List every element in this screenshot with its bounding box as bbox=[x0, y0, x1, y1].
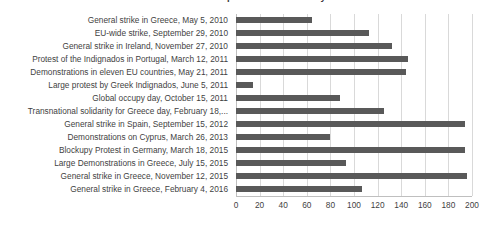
category-label: Protest of the Indignados in Portugal, M… bbox=[0, 53, 231, 66]
bar-row bbox=[236, 27, 472, 40]
category-label: Large Demonstrations in Greece, July 15,… bbox=[0, 157, 231, 170]
bar bbox=[236, 17, 312, 23]
category-label: General strike in Greece, February 4, 20… bbox=[0, 183, 231, 196]
x-tick-label: 120 bbox=[371, 199, 385, 211]
bar-row bbox=[236, 79, 472, 92]
bar-row bbox=[236, 14, 472, 27]
category-label: Blockupy Protest in Germany, March 18, 2… bbox=[0, 144, 231, 157]
bar bbox=[236, 56, 408, 62]
bar bbox=[236, 160, 346, 166]
category-axis-labels: General strike in Greece, May 5, 2010EU-… bbox=[0, 14, 231, 196]
category-label: Demonstrations in eleven EU countries, M… bbox=[0, 66, 231, 79]
x-tick-label: 160 bbox=[418, 199, 432, 211]
x-tick-label: 80 bbox=[326, 199, 335, 211]
category-label: General strike in Spain, September 15, 2… bbox=[0, 118, 231, 131]
x-tick-label: 140 bbox=[394, 199, 408, 211]
bar bbox=[236, 134, 330, 140]
category-label: General strike in Greece, November 12, 2… bbox=[0, 170, 231, 183]
x-axis-line bbox=[236, 196, 472, 197]
x-tick-label: 200 bbox=[465, 199, 479, 211]
bar bbox=[236, 173, 467, 179]
bar-row bbox=[236, 105, 472, 118]
chart-title: Selected transnational protest and solid… bbox=[0, 0, 480, 2]
x-axis-tick-labels: 020406080100120140160180200 bbox=[236, 199, 472, 213]
category-label: Transnational solidarity for Greece day,… bbox=[0, 105, 231, 118]
bar-row bbox=[236, 183, 472, 196]
bar bbox=[236, 69, 406, 75]
bar bbox=[236, 43, 392, 49]
bar bbox=[236, 95, 340, 101]
gridline bbox=[472, 14, 473, 196]
bar-row bbox=[236, 131, 472, 144]
category-label: Demonstrations on Cyprus, March 26, 2013 bbox=[0, 131, 231, 144]
bar bbox=[236, 147, 465, 153]
x-tick-label: 180 bbox=[441, 199, 455, 211]
x-tick-label: 0 bbox=[234, 199, 239, 211]
category-label: General strike in Greece, May 5, 2010 bbox=[0, 14, 231, 27]
category-label: General strike in Ireland, November 27, … bbox=[0, 40, 231, 53]
x-tick-label: 40 bbox=[279, 199, 288, 211]
category-label: Large protest by Greek Indignados, June … bbox=[0, 79, 231, 92]
bar-chart: Selected transnational protest and solid… bbox=[0, 0, 480, 226]
bar-row bbox=[236, 40, 472, 53]
bar bbox=[236, 30, 369, 36]
bar bbox=[236, 121, 465, 127]
bar-row bbox=[236, 66, 472, 79]
bar bbox=[236, 82, 253, 88]
plot-area bbox=[236, 14, 472, 196]
bar-row bbox=[236, 53, 472, 66]
x-tick-label: 20 bbox=[255, 199, 264, 211]
category-label: Global occupy day, October 15, 2011 bbox=[0, 92, 231, 105]
bar-row bbox=[236, 92, 472, 105]
bar bbox=[236, 186, 362, 192]
bar-row bbox=[236, 157, 472, 170]
bar bbox=[236, 108, 384, 114]
bar-row bbox=[236, 144, 472, 157]
x-tick-label: 100 bbox=[347, 199, 361, 211]
x-tick-label: 60 bbox=[302, 199, 311, 211]
bar-row bbox=[236, 170, 472, 183]
bar-row bbox=[236, 118, 472, 131]
category-label: EU-wide strike, September 29, 2010 bbox=[0, 27, 231, 40]
